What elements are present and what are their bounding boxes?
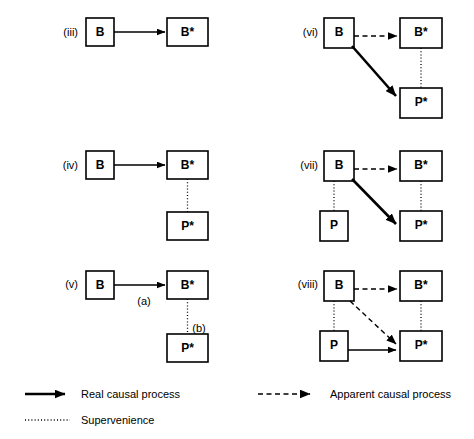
panel-viii-node-B-text: B [335,278,344,292]
panel-iii-node-B-text: B [96,25,105,39]
panel-v-label: (v) [65,278,78,290]
panel-viii-edge-B-to-Pstar [350,301,396,344]
panel-v-edge-label-a: (a) [137,295,150,307]
panel-vi: (vi) B B* P* [303,18,442,118]
panel-v-edge-label-b: (b) [192,322,205,334]
panel-viii-node-Pstar-text: P* [415,338,428,352]
causal-diagram-figure: (iii) B B* (iv) B B* P* (v) B (a) [0,0,474,439]
legend-apparent-label: Apparent causal process [330,388,452,400]
panel-v-node-Pstar-text: P* [181,341,194,355]
panel-vii-label: (vii) [300,159,318,171]
panel-vii-node-P-text: P [330,218,338,232]
panel-iv-node-Bstar-text: B* [181,158,195,172]
panel-vii-node-Pstar-text: P* [415,218,428,232]
panel-viii: (viii) B B* P P* [298,271,442,361]
legend-item-apparent: Apparent causal process [258,388,452,400]
panel-vi-node-Bstar-text: B* [414,25,428,39]
panel-iii-node-Bstar-text: B* [181,25,195,39]
panel-vi-node-Pstar-text: P* [415,95,428,109]
legend-real-label: Real causal process [81,388,181,400]
panel-iii: (iii) B B* [63,18,208,46]
legend-item-real: Real causal process [25,388,181,400]
panel-viii-label: (viii) [298,278,318,290]
panel-vii: (vii) B B* P P* [300,151,442,241]
panel-vi-edge-B-to-Pstar [352,46,396,96]
legend-supervenience-label: Supervenience [81,414,154,426]
legend: Real causal process Apparent causal proc… [25,388,452,426]
panel-vi-node-B-text: B [335,25,344,39]
diagram-canvas: (iii) B B* (iv) B B* P* (v) B (a) [0,0,474,439]
panel-viii-node-Bstar-text: B* [414,278,428,292]
panel-vii-node-Bstar-text: B* [414,158,428,172]
panel-v: (v) B (a) B* (b) P* [65,271,208,362]
panel-iv-node-Pstar-text: P* [181,219,194,233]
panel-v-node-B-text: B [96,278,105,292]
panel-iii-label: (iii) [63,26,78,38]
panel-vii-edge-B-to-Pstar [352,179,396,224]
panel-vi-label: (vi) [303,26,318,38]
panel-v-node-Bstar-text: B* [181,278,195,292]
panel-vii-node-B-text: B [335,158,344,172]
panel-viii-node-P-text: P [330,338,338,352]
panel-iv-node-B-text: B [96,158,105,172]
legend-item-supervenience: Supervenience [25,414,154,426]
panel-iv-label: (iv) [63,159,78,171]
panel-iv: (iv) B B* P* [63,151,208,240]
